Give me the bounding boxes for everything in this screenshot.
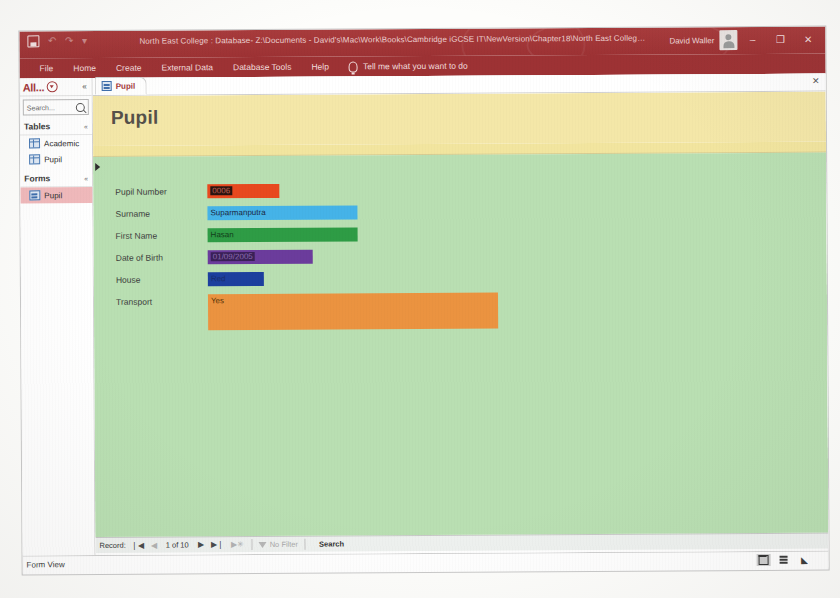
minimize-button[interactable]: – (739, 30, 765, 50)
search-placeholder: Search... (27, 104, 55, 111)
field-row: Pupil Number 0006 (115, 184, 279, 200)
field-input-surname[interactable]: Suparmanputra (207, 205, 357, 220)
ribbon-tab-home[interactable]: Home (63, 58, 106, 78)
field-label-surname: Surname (115, 206, 207, 222)
record-selector[interactable] (93, 157, 104, 537)
field-label-transport: Transport (116, 294, 208, 310)
field-value-pupil-number: 0006 (210, 186, 232, 195)
next-record-button[interactable]: ▶ (196, 541, 206, 549)
nav-item-label: Pupil (44, 191, 62, 200)
form-title: Pupil (111, 107, 159, 129)
design-view-icon: ◢ (800, 555, 807, 565)
document-area: Pupil ✕ Pupil Pupil (93, 74, 829, 555)
ribbon-tab-help[interactable]: Help (301, 57, 339, 77)
workspace: All... « Search... Tables « Academic (20, 74, 829, 556)
navigation-pane-header[interactable]: All... « (20, 78, 92, 96)
form-icon (29, 190, 40, 200)
record-nav-divider (252, 539, 253, 550)
form-detail-section: Pupil Number 0006 Surname Suparmanputra (93, 153, 828, 537)
field-value-date-of-birth: 01/09/2005 (211, 252, 255, 261)
field-row: House Red (116, 272, 264, 288)
close-button[interactable]: ✕ (795, 30, 821, 50)
field-input-transport[interactable]: Yes (208, 293, 498, 331)
layout-view-icon (780, 556, 788, 564)
field-input-pupil-number[interactable]: 0006 (207, 184, 279, 198)
chevron-down-icon[interactable] (47, 81, 58, 92)
title-bar-right-controls: David Waller – ❐ ✕ (669, 30, 821, 51)
record-nav-divider (304, 539, 305, 550)
view-switcher: ◢ (757, 554, 825, 566)
table-icon (29, 138, 40, 148)
filter-icon (259, 541, 267, 547)
field-label-date-of-birth: Date of Birth (116, 250, 208, 266)
collapse-pane-icon[interactable]: « (82, 82, 89, 91)
field-label-pupil-number: Pupil Number (115, 184, 207, 200)
account-name[interactable]: David Waller (669, 36, 714, 45)
nav-group-tables[interactable]: Tables « (20, 118, 92, 135)
field-input-date-of-birth[interactable]: 01/09/2005 (208, 250, 313, 265)
first-record-button[interactable]: ❘◀ (129, 541, 146, 549)
avatar[interactable] (719, 30, 737, 50)
navigation-pane-title: All... (23, 81, 45, 93)
filter-label: No Filter (270, 540, 298, 549)
ribbon-tab-database-tools[interactable]: Database Tools (223, 57, 302, 77)
search-icon (76, 103, 85, 112)
nav-group-forms[interactable]: Forms « (20, 170, 92, 187)
nav-item-table-academic[interactable]: Academic (20, 135, 92, 151)
nav-group-tables-label: Tables (24, 121, 50, 131)
form-header: Pupil (93, 92, 826, 146)
lightbulb-icon (349, 61, 358, 72)
field-input-house[interactable]: Red (208, 272, 264, 286)
tab-label: Pupil (116, 81, 136, 90)
form-icon (102, 81, 112, 91)
record-counter[interactable]: 1 of 10 (162, 540, 193, 549)
record-nav-label: Record: (99, 541, 125, 550)
record-selector-arrow-icon (95, 163, 100, 171)
nav-group-forms-label: Forms (24, 173, 50, 183)
filter-status[interactable]: No Filter (259, 540, 298, 549)
field-input-first-name[interactable]: Hasan (208, 227, 358, 242)
tell-me-placeholder: Tell me what you want to do (363, 61, 468, 72)
field-label-first-name: First Name (116, 228, 208, 244)
design-view-button[interactable]: ◢ (797, 554, 811, 566)
nav-item-table-pupil[interactable]: Pupil (20, 151, 92, 167)
new-record-button[interactable]: ▶✳ (229, 541, 246, 549)
field-row: First Name Hasan (116, 227, 358, 243)
field-row: Transport Yes (116, 293, 498, 331)
access-application-window: ↶ ↷ ▾ North East College : Database- Z:\… (19, 27, 828, 575)
nav-item-label: Pupil (44, 155, 62, 164)
ribbon-tab-external-data[interactable]: External Data (151, 57, 223, 77)
maximize-button[interactable]: ❐ (767, 30, 793, 50)
nav-item-form-pupil[interactable]: Pupil (20, 187, 92, 203)
form-view-button[interactable] (757, 554, 771, 566)
last-record-button[interactable]: ▶❘ (209, 541, 226, 549)
field-row: Date of Birth 01/09/2005 (116, 250, 313, 266)
navigation-pane: All... « Search... Tables « Academic (20, 78, 96, 555)
form-view-icon (759, 555, 769, 565)
field-row: Surname Suparmanputra (115, 205, 357, 221)
nav-item-label: Academic (44, 139, 79, 148)
close-document-icon[interactable]: ✕ (812, 77, 820, 86)
ribbon-tab-create[interactable]: Create (106, 58, 152, 78)
table-icon (29, 154, 40, 164)
tab-pupil[interactable]: Pupil (95, 77, 147, 95)
layout-view-button[interactable] (777, 554, 791, 566)
record-search-input[interactable]: Search (315, 539, 348, 548)
ribbon-tab-file[interactable]: File (30, 58, 64, 78)
search-input[interactable]: Search... (23, 99, 89, 115)
previous-record-button[interactable]: ◀ (149, 541, 159, 549)
chevron-collapse-icon[interactable]: « (84, 175, 88, 182)
photo-page-background: ↶ ↷ ▾ North East College : Database- Z:\… (0, 0, 840, 598)
status-view-label: Form View (27, 560, 65, 569)
form-canvas: Pupil Pupil Number 0006 (93, 92, 829, 555)
chevron-collapse-icon[interactable]: « (84, 123, 88, 130)
tell-me-search[interactable]: Tell me what you want to do (349, 60, 468, 72)
field-label-house: House (116, 272, 208, 288)
